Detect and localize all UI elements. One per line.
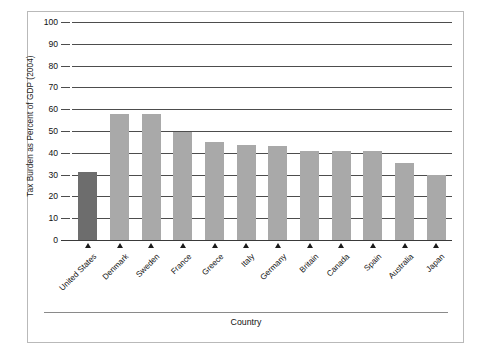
y-axis-tick-label: 30 [48,170,58,180]
y-axis-tick [61,44,70,45]
bar [205,142,224,240]
y-axis-tick [61,196,70,197]
x-axis-line [61,240,452,241]
y-axis-tick [61,22,70,23]
x-axis-tick-marker [338,243,344,248]
x-axis-tick-marker [307,243,313,248]
y-axis-tick [61,175,70,176]
y-axis-title-text: Tax Burden as Percent of GDP (2004) [26,26,35,226]
x-axis-tick-marker [117,243,123,248]
y-axis-tick [61,153,70,154]
y-axis-tick [61,131,70,132]
y-axis-tick-label: 100 [44,17,58,27]
x-axis-tick-marker [433,243,439,248]
bar [110,114,129,240]
x-axis-title-rule [44,312,448,313]
y-axis-tick [61,109,70,110]
bar [395,163,414,240]
x-axis-tick-marker [212,243,218,248]
y-axis-tick [61,87,70,88]
y-axis-tick [61,218,70,219]
y-axis-tick-label: 60 [48,104,58,114]
bar [300,151,319,240]
bar [268,146,287,240]
chart-figure: Tax Burden as Percent of GDP (2004) 0102… [0,0,488,360]
y-axis-tick-label: 70 [48,82,58,92]
x-axis-tick-marker [148,243,154,248]
x-axis-tick-marker [243,243,249,248]
x-axis-title: Country [44,317,448,327]
x-axis-tick-marker [180,243,186,248]
y-axis-tick-label: 50 [48,126,58,136]
plot-area: 0102030405060708090100 [72,22,452,240]
y-axis-tick-label: 0 [53,235,58,245]
x-axis-tick-marker [370,243,376,248]
y-axis-tick-label: 90 [48,39,58,49]
bar [332,151,351,240]
y-axis-tick [61,66,70,67]
bar [142,114,161,240]
x-axis-tick-marker [402,243,408,248]
y-axis-tick-label: 10 [48,213,58,223]
y-axis-tick-label: 40 [48,148,58,158]
bar [363,151,382,240]
bar [78,172,97,240]
y-axis-tick-label: 80 [48,61,58,71]
y-axis-title: Tax Burden as Percent of GDP (2004) [26,0,40,30]
y-axis-tick-label: 20 [48,191,58,201]
x-axis-tick-marker [275,243,281,248]
x-axis-tick-marker [85,243,91,248]
bar [237,145,256,240]
bars-group [72,22,452,240]
bar [427,175,446,240]
bar [173,132,192,240]
